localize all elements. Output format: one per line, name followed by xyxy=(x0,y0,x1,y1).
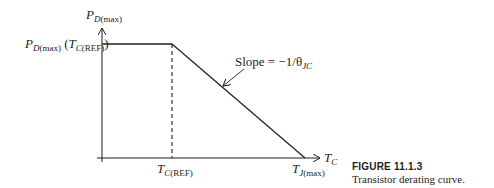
y-level-label: PD(max) (TC(REF)) xyxy=(25,37,109,53)
y-axis-label: PD(max) xyxy=(86,8,122,24)
figure-caption: FIGURE 11.1.3 Transistor derating curve. xyxy=(352,160,465,186)
slope-pointer-arrow xyxy=(223,69,244,86)
figure-number: FIGURE 11.1.3 xyxy=(352,160,465,173)
x-ref-label: TC(REF) xyxy=(157,162,193,178)
slope-label: Slope = −1/θJC xyxy=(235,55,312,71)
x-axis-label: TC xyxy=(324,151,337,167)
x-max-label: TJ(max) xyxy=(292,162,325,178)
figure-caption-text: Transistor derating curve. xyxy=(352,173,465,186)
